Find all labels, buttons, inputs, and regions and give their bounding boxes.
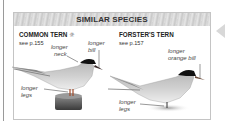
common-tern-illustration xyxy=(0,0,225,129)
neck-pointer-line xyxy=(67,56,78,62)
legs-pointer-line xyxy=(44,89,68,92)
forsters-tern-bird xyxy=(108,70,205,112)
perch-post xyxy=(55,93,82,110)
